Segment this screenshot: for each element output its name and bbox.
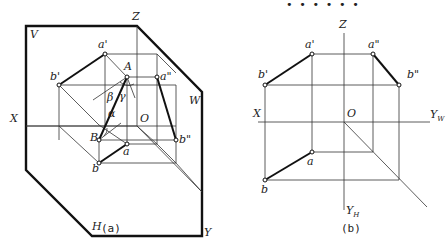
label-a: a [123,145,130,158]
label-gamma: γ [119,90,126,103]
label-alpha: α [108,107,116,120]
label-O: O [140,112,149,125]
segment-a-dprime-b-dprime [373,54,399,85]
figure-a: Z V W H X Y O a' b' A a" B b" a b β γ α … [9,10,213,239]
label-b-prime: b' [50,70,60,83]
point-b-prime [57,83,61,87]
label-Z: Z [338,18,347,31]
label-a: a [307,155,314,168]
label-a-prime: a' [305,38,315,51]
point-a [310,150,314,154]
header-dots: • • • • • • [286,0,359,11]
45-degree-line [344,122,427,207]
label-A: A [123,60,132,73]
point-b [263,178,267,182]
label-b-dprime: b" [179,133,191,146]
label-X: X [252,107,262,120]
segment-ab [265,152,312,180]
label-Z: Z [131,10,140,23]
label-b: b [92,162,99,175]
point-a-prime [103,52,107,56]
caption-b: (b) [341,222,361,235]
label-W: W [189,94,202,107]
caption-a: (a) [101,222,121,235]
label-b-prime: b' [258,68,268,81]
segment-a-prime-b-prime [59,54,105,85]
label-b-dprime: b" [407,68,419,81]
point-b-dprime [174,138,178,142]
point-A [125,75,129,79]
label-a-dprime: a" [160,70,172,83]
label-O: O [347,107,356,120]
diagram-canvas: • • • • • • [0,0,446,242]
figure-b: Z X O YW YH a' b' a" b" a b (b) [252,18,445,235]
segment-a-dprime-b-dprime [157,77,176,140]
point-a-dprime [155,75,159,79]
label-B: B [89,131,98,144]
label-Y: Y [204,226,213,239]
label-Yw: YW [430,108,445,123]
y-axis [137,126,202,192]
label-a-dprime: a" [368,38,380,51]
label-X: X [9,112,19,125]
label-beta: β [106,91,113,104]
point-b-dprime [397,83,401,87]
label-Yh: YH [346,204,360,219]
segment-a-prime-b-prime [265,54,312,85]
label-V: V [30,28,39,41]
point-a-dprime [371,52,375,56]
label-b: b [261,183,268,196]
point-a-prime [310,52,314,56]
point-b-prime [263,83,267,87]
label-a-prime: a' [98,38,108,51]
